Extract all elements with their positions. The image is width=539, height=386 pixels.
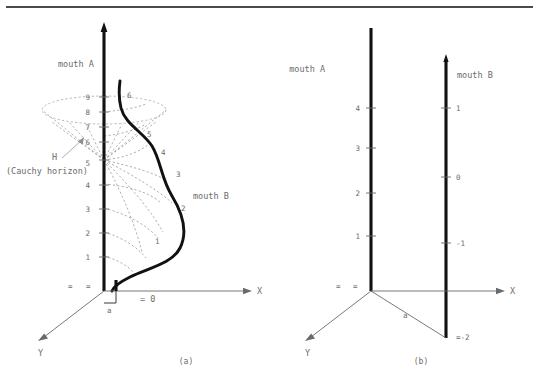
separation-line-b xyxy=(371,291,446,338)
mouth-b-label-a: mouth B xyxy=(193,191,229,201)
curve-label-6: 6 xyxy=(127,91,132,100)
y-axis-label-a: Y xyxy=(38,348,43,358)
separation-bracket-a xyxy=(104,291,116,303)
mouth-b-worldline-b xyxy=(443,54,448,338)
x-axis-arrowhead-b xyxy=(496,288,505,294)
tick-label-a-8: 8 xyxy=(85,108,90,117)
mouth-a-label-a: mouth A xyxy=(58,59,94,69)
bottom-value-label-b: =-2 xyxy=(456,333,470,342)
mouth-b-worldline-a xyxy=(112,81,184,291)
tick-label-b-a-2: 2 xyxy=(355,189,360,198)
mouth-a-worldline-a xyxy=(101,22,108,291)
horizon-leader-line xyxy=(62,140,82,158)
panel-b: 4 3 2 1 1 0 -1 mouth A mouth B X Y a xyxy=(289,28,516,366)
mouth-a-arrowhead xyxy=(101,22,108,32)
panel-caption-b: (b) xyxy=(414,357,428,366)
x-axis-b: X xyxy=(371,286,516,296)
curve-label-5: 5 xyxy=(147,130,152,139)
separation-label-b: a xyxy=(403,311,408,320)
horizon-symbol-label: H xyxy=(52,152,57,162)
time-zero-label-a: = 0 xyxy=(140,294,155,304)
cauchy-horizon-label: (Cauchy horizon) xyxy=(6,166,88,176)
x-axis-label-b: X xyxy=(510,286,516,296)
tick-label-a-6: 6 xyxy=(85,138,90,147)
x-axis-a: X xyxy=(104,286,263,296)
curve-label-2: 2 xyxy=(181,204,186,213)
eq-mark-b-2: = xyxy=(353,282,358,291)
tick-label-b-a-1: 1 xyxy=(355,232,360,241)
tick-label-a-1: 1 xyxy=(85,253,90,262)
y-axis-b: Y xyxy=(305,291,371,358)
curve-label-1: 1 xyxy=(155,237,160,246)
mouth-b-label-b: mouth B xyxy=(457,70,493,80)
panel-a: 9 8 7 6 5 4 3 2 1 6 5 4 3 2 1 mouth A mo… xyxy=(6,22,263,366)
tick-label-a-7: 7 xyxy=(85,123,90,132)
y-axis-a: Y xyxy=(38,291,104,358)
eq-mark-a-1: = xyxy=(68,282,73,291)
curve-label-4: 4 xyxy=(161,148,166,157)
tick-label-b-b-0: 0 xyxy=(456,173,461,182)
eq-mark-a-2: = xyxy=(86,282,91,291)
x-axis-arrowhead-a xyxy=(243,288,252,294)
tick-label-b-b-1: 1 xyxy=(456,104,461,113)
panel-caption-a: (a) xyxy=(179,357,193,366)
mouth-b-arrowhead-b xyxy=(443,54,448,62)
tick-label-a-4: 4 xyxy=(85,181,90,190)
tick-label-a-2: 2 xyxy=(85,229,90,238)
tick-label-b-a-3: 3 xyxy=(355,144,360,153)
tick-label-b-a-4: 4 xyxy=(355,104,360,113)
x-axis-label-a: X xyxy=(257,286,263,296)
tick-label-b-b-neg1: -1 xyxy=(456,239,465,248)
mouth-a-label-b: mouth A xyxy=(289,64,325,74)
figure-canvas: 9 8 7 6 5 4 3 2 1 6 5 4 3 2 1 mouth A mo… xyxy=(0,0,539,386)
tick-label-a-9: 9 xyxy=(85,93,90,102)
curve-label-3: 3 xyxy=(176,170,181,179)
eq-mark-b-1: = xyxy=(336,282,341,291)
tick-label-a-3: 3 xyxy=(85,205,90,214)
y-axis-label-b: Y xyxy=(305,348,310,358)
separation-label-a: a xyxy=(107,306,112,315)
